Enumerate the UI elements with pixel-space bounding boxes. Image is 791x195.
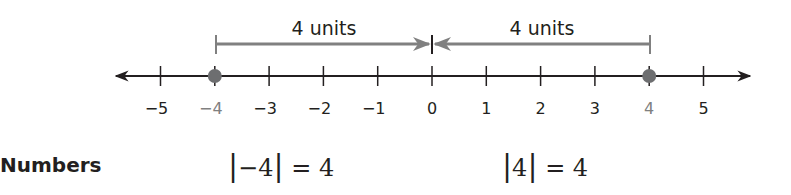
bracket-left-label: 4 units <box>292 17 357 39</box>
number-line-diagram: −5−4−3−2−1012345 4 units 4 units <box>0 0 791 130</box>
tick-label-3: 3 <box>590 99 600 118</box>
numbers-label: Numbers <box>0 153 101 177</box>
tick-label--2: −2 <box>308 99 332 118</box>
tick-label-2: 2 <box>536 99 546 118</box>
tick-labels: −5−4−3−2−1012345 <box>145 99 709 118</box>
bracket-left: 4 units <box>216 17 429 54</box>
abs-expression-negative: |−4| = 4 <box>228 148 334 183</box>
expr-inner: 4 <box>512 154 527 182</box>
expr-inner: −4 <box>238 154 273 182</box>
tick-label-5: 5 <box>698 99 708 118</box>
abs-expression-positive: |4| = 4 <box>502 148 588 183</box>
tick-label--4: −4 <box>199 99 223 118</box>
tick-label-0: 0 <box>427 99 437 118</box>
tick-label--3: −3 <box>253 99 277 118</box>
tick-label--5: −5 <box>145 99 169 118</box>
point--4 <box>208 69 222 83</box>
point-4 <box>642 69 656 83</box>
tick-label-4: 4 <box>644 99 654 118</box>
bracket-right-label: 4 units <box>510 17 575 39</box>
tick-label--1: −1 <box>362 99 386 118</box>
tick-label-1: 1 <box>481 99 491 118</box>
bracket-right: 4 units <box>435 17 650 54</box>
